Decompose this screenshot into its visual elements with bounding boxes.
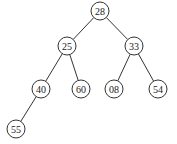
edges <box>21 17 154 121</box>
tree-node-25: 25 <box>58 37 76 55</box>
node-label: 08 <box>109 84 119 95</box>
node-label: 55 <box>11 124 21 135</box>
tree-node-08: 08 <box>105 80 123 98</box>
tree-node-54: 54 <box>149 80 167 98</box>
edge-33-54 <box>138 54 153 81</box>
nodes: 2825334060085455 <box>7 2 167 138</box>
node-label: 25 <box>62 41 72 52</box>
tree-node-40: 40 <box>32 80 50 98</box>
edge-28-25 <box>73 18 94 40</box>
binary-tree-diagram: 2825334060085455 <box>0 0 177 144</box>
edge-25-60 <box>70 55 78 81</box>
edge-25-40 <box>46 54 63 82</box>
node-label: 33 <box>129 41 139 52</box>
tree-node-55: 55 <box>7 120 25 138</box>
node-label: 54 <box>153 84 163 95</box>
node-label: 60 <box>76 84 86 95</box>
tree-node-60: 60 <box>72 80 90 98</box>
node-label: 40 <box>36 84 46 95</box>
tree-node-33: 33 <box>125 37 143 55</box>
edge-40-55 <box>21 97 36 122</box>
tree-node-28: 28 <box>91 2 109 20</box>
edge-28-33 <box>106 17 127 39</box>
node-label: 28 <box>95 6 105 17</box>
edge-33-08 <box>118 54 130 81</box>
